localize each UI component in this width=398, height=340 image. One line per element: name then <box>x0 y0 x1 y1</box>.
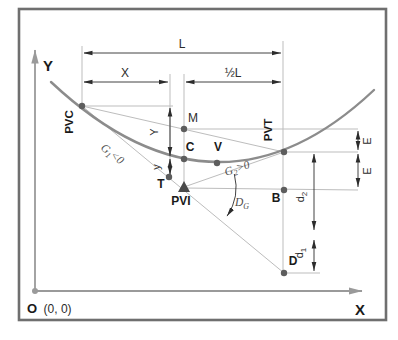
v-label: V <box>214 140 222 154</box>
x-dimension-label: X <box>121 66 129 80</box>
origin-label: O (0, 0) <box>27 299 72 316</box>
b-point <box>281 187 287 193</box>
d2-label: d2 <box>294 191 309 202</box>
l-dimension-label: L <box>179 37 186 51</box>
pvt-point <box>281 149 287 155</box>
small-y-label: y <box>150 164 162 170</box>
t-label: T <box>157 177 165 191</box>
y-offset-label: Y <box>148 128 160 136</box>
pvc-label: PVC <box>63 110 75 134</box>
x-axis-label: X <box>355 301 365 318</box>
d-point <box>281 270 287 276</box>
t-point <box>166 174 172 180</box>
dg-angle-label: DG <box>234 196 249 211</box>
y-axis-label: Y <box>43 57 53 74</box>
m-point <box>181 126 187 132</box>
e-lower-label: E <box>361 167 373 174</box>
d-label: D <box>289 254 298 268</box>
pvi-label: PVI <box>171 194 190 208</box>
pvi-level-line <box>184 188 358 190</box>
c-label: C <box>186 140 195 154</box>
figure-border <box>19 9 386 320</box>
m-label: M <box>188 111 198 125</box>
half-l-dimension-label: ½L <box>225 66 242 80</box>
pvt-label: PVT <box>262 119 274 141</box>
c-point <box>181 156 187 162</box>
e-upper-label: E <box>361 137 373 144</box>
vertical-curve-figure: Y X O (0, 0) L X ½L Y y E E d2 d1 PVC PV… <box>0 0 398 340</box>
v-point <box>214 160 220 166</box>
pvc-point <box>79 103 85 109</box>
b-label: B <box>272 191 281 205</box>
origin-point <box>32 288 38 294</box>
diagram-canvas: Y X O (0, 0) L X ½L Y y E E d2 d1 PVC PV… <box>0 0 398 340</box>
g1-grade-label: G1<0 <box>97 141 126 168</box>
